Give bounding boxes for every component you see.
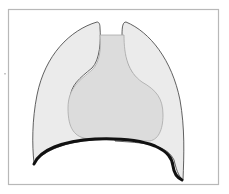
thorax-diagram: [0, 0, 229, 194]
diagram-canvas: [0, 0, 229, 194]
stray-mark: [4, 73, 6, 75]
